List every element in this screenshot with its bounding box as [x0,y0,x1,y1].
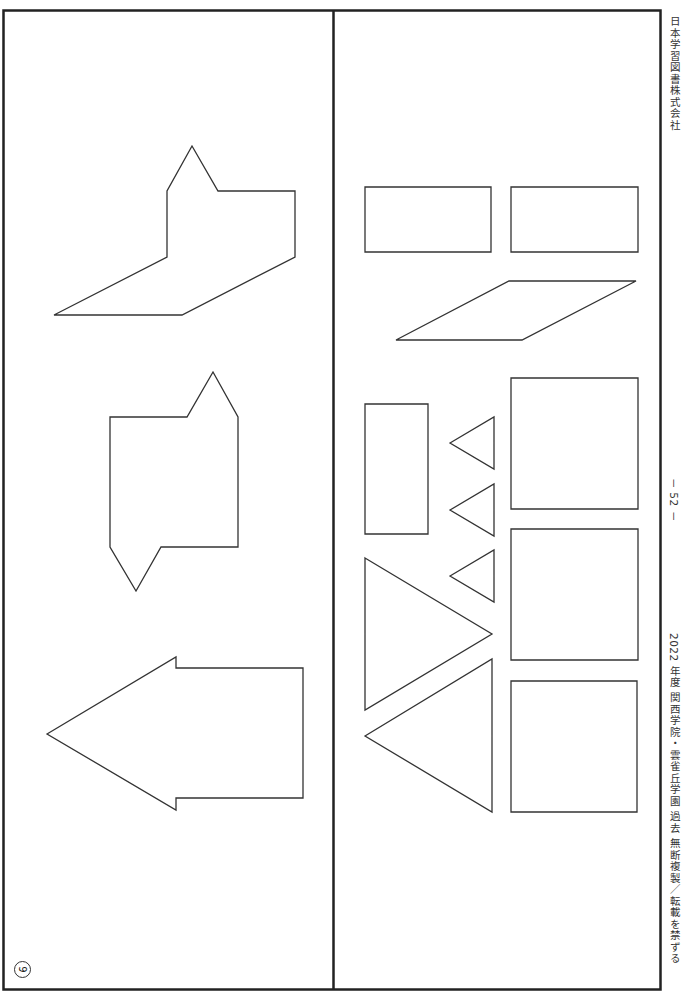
silhouette-pointed-l-shape [54,146,295,315]
silhouette-notched-square [110,372,238,591]
publisher-label: 日本学習図書株式会社 [667,16,682,131]
right-panel-pieces [365,187,638,812]
piece-rectangle-2 [511,187,638,252]
piece-parallelogram [396,281,636,340]
piece-square-2 [511,529,638,660]
left-panel-silhouettes [47,146,303,810]
piece-tall-rectangle [365,404,428,534]
piece-large-triangle-1 [365,558,492,710]
outer-frame [4,11,661,990]
piece-small-triangle-2 [450,484,494,536]
piece-small-triangle-1 [450,417,494,469]
footer-copyright: 2022 年度 関西学院・雲雀丘学園 過去 無断複製／転載を禁ずる [667,633,682,965]
piece-small-triangle-3 [450,550,494,602]
worksheet-canvas [0,0,693,1004]
page-number: － 52 － [667,478,682,521]
piece-large-triangle-2 [365,659,492,812]
silhouette-arrow [47,657,303,810]
piece-square-3 [511,681,637,812]
question-number-badge: 9 [14,961,31,978]
piece-rectangle-1 [365,187,491,252]
piece-square-1 [511,378,638,509]
